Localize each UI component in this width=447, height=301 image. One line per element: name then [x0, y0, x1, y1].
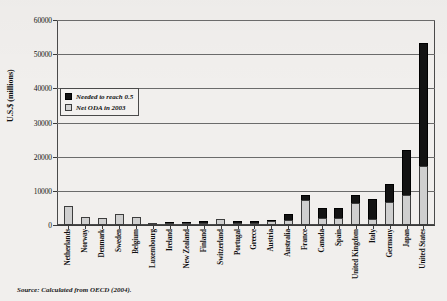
stacked-bar[interactable] [368, 199, 377, 225]
bar-group[interactable] [314, 20, 331, 225]
category-label-slot: Portugal [229, 229, 246, 289]
bar-segment-needed [385, 184, 394, 203]
category-label-slot: France [297, 229, 314, 289]
bar-group[interactable] [331, 20, 348, 225]
stacked-bar[interactable] [402, 150, 411, 225]
category-label: Greece [250, 229, 258, 250]
bar-group[interactable] [280, 20, 297, 225]
y-axis-title: U.S.$ (millions) [6, 69, 15, 122]
category-label-slot: Norway [77, 229, 94, 289]
legend-item-net-oda: Net ODA in 2003 [65, 103, 133, 112]
bar-group[interactable] [229, 20, 246, 225]
bar-group[interactable] [212, 20, 229, 225]
stacked-bar[interactable] [81, 217, 90, 225]
category-label: Austria [267, 229, 275, 251]
bar-group[interactable] [94, 20, 111, 225]
category-label-slot: Spain [331, 229, 348, 289]
bar-segment-needed [318, 208, 327, 218]
stacked-bar[interactable] [334, 208, 343, 225]
category-label: Netherlands [64, 229, 72, 265]
category-label-slot: Germany [381, 229, 398, 289]
bar-group[interactable] [60, 20, 77, 225]
category-label-slot: United States [415, 229, 432, 289]
stacked-bar[interactable] [318, 208, 327, 225]
bar-segment-net-oda [81, 217, 90, 225]
bar-group[interactable] [128, 20, 145, 225]
bar-group[interactable] [347, 20, 364, 225]
x-axis-category-labels: NetherlandsNorwayDenmarkSwedenBelgiumLux… [57, 229, 435, 289]
stacked-bar[interactable] [301, 195, 310, 225]
bar-segment-net-oda [419, 166, 428, 225]
bar-group[interactable] [297, 20, 314, 225]
bar-group[interactable] [415, 20, 432, 225]
category-label-slot: Netherlands [60, 229, 77, 289]
stacked-bar[interactable] [115, 214, 124, 225]
gray-swatch-icon [65, 104, 72, 111]
category-label-slot: Ireland [161, 229, 178, 289]
black-swatch-icon [65, 93, 72, 100]
bar-segment-needed [334, 208, 343, 218]
bar-segment-net-oda [115, 214, 124, 225]
bar-segment-needed [419, 43, 428, 166]
category-label-slot: Denmark [94, 229, 111, 289]
category-label: United States [419, 229, 427, 269]
category-label: Switzerland [217, 229, 225, 265]
category-label: Ireland [166, 229, 174, 251]
category-label-slot: Japan [398, 229, 415, 289]
category-label: Italy [369, 229, 377, 243]
stacked-bar[interactable] [419, 43, 428, 225]
category-label: New Zealand [183, 229, 191, 268]
bar-segment-net-oda [351, 203, 360, 225]
bar-group[interactable] [161, 20, 178, 225]
bar-group[interactable] [178, 20, 195, 225]
bar-group[interactable] [263, 20, 280, 225]
category-label: France [301, 229, 309, 250]
bar-segment-net-oda [318, 218, 327, 225]
bar-segment-net-oda [64, 206, 73, 225]
bar-segment-net-oda [334, 218, 343, 225]
category-label: Finland [200, 229, 208, 252]
stacked-bar[interactable] [132, 217, 141, 225]
category-label: Sweden [115, 229, 123, 252]
bar-group[interactable] [77, 20, 94, 225]
bar-segment-needed [351, 195, 360, 203]
bar-group[interactable] [145, 20, 162, 225]
category-label: Luxembourg [149, 229, 157, 268]
bar-segment-net-oda [132, 217, 141, 225]
category-label: Germany [386, 229, 394, 257]
bar-group[interactable] [246, 20, 263, 225]
bar-group[interactable] [364, 20, 381, 225]
bar-series-layer [57, 20, 435, 225]
stacked-bar[interactable] [284, 214, 293, 225]
bar-segment-needed [368, 199, 377, 219]
category-label-slot: Belgium [128, 229, 145, 289]
category-label-slot: Italy [364, 229, 381, 289]
bar-segment-needed [402, 150, 411, 195]
stacked-bar[interactable] [64, 206, 73, 225]
category-label-slot: Finland [195, 229, 212, 289]
category-label-slot: United Kingdom [347, 229, 364, 289]
category-label: Norway [81, 229, 89, 253]
stacked-bar[interactable] [385, 184, 394, 226]
legend-item-needed: Needed to reach 0.5 [65, 92, 133, 101]
category-label: United Kingdom [352, 229, 360, 279]
stacked-bar[interactable] [98, 218, 107, 225]
category-label: Spain [335, 229, 343, 246]
chart-legend: Needed to reach 0.5 Net ODA in 2003 [60, 88, 139, 116]
category-label-slot: Sweden [111, 229, 128, 289]
category-label: Japan [403, 229, 411, 247]
plot-area: 0100002000030000400005000060000 [57, 20, 435, 225]
category-label-slot: New Zealand [178, 229, 195, 289]
bar-group[interactable] [381, 20, 398, 225]
stacked-bar[interactable] [351, 195, 360, 225]
legend-label-needed: Needed to reach 0.5 [76, 93, 133, 101]
source-note: Source: Calculated from OECD (2004). [17, 286, 132, 294]
figure-root: U.S.$ (millions) 01000020000300004000050… [0, 0, 447, 301]
bar-group[interactable] [195, 20, 212, 225]
category-label: Australia [284, 229, 292, 257]
bar-segment-net-oda [98, 218, 107, 225]
bar-group[interactable] [111, 20, 128, 225]
bar-group[interactable] [398, 20, 415, 225]
category-label-slot: Switzerland [212, 229, 229, 289]
category-label-slot: Luxembourg [145, 229, 162, 289]
